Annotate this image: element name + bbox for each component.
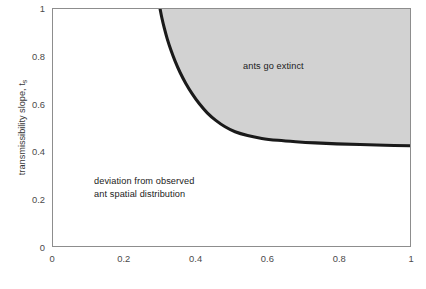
chart-figure: ants go extinct deviation from observed … (0, 0, 426, 289)
x-tick-label: 0 (49, 253, 54, 264)
annotation-ants-go-extinct: ants go extinct (243, 60, 304, 73)
annotation-deviation-line1: deviation from observed (94, 175, 194, 188)
y-tick-label: 1 (40, 3, 45, 14)
y-tick-label: 0.2 (32, 194, 45, 205)
annotation-deviation-line2: ant spatial distribution (94, 188, 194, 201)
extinction-region-fill (160, 9, 410, 146)
annotation-extinct-text: ants go extinct (243, 61, 304, 71)
plot-area: ants go extinct deviation from observed … (52, 8, 411, 247)
x-tick-label: 0.8 (333, 253, 346, 264)
x-tick-label: 0.6 (261, 253, 274, 264)
y-axis-title: transmissibility slope, ts (14, 8, 30, 247)
y-axis-title-subscript: s (21, 80, 28, 84)
x-tick-label: 1 (408, 253, 413, 264)
x-tick-label: 0.2 (117, 253, 130, 264)
y-tick-label: 0.8 (32, 50, 45, 61)
annotation-deviation-from-observed: deviation from observed ant spatial dist… (94, 175, 194, 201)
y-tick-label: 0.4 (32, 146, 45, 157)
y-tick-label: 0 (40, 242, 45, 253)
y-axis-title-main: transmissibility slope, t (17, 83, 27, 175)
threshold-curve-svg (53, 9, 410, 246)
y-tick-label: 0.6 (32, 98, 45, 109)
x-tick-label: 0.4 (189, 253, 202, 264)
